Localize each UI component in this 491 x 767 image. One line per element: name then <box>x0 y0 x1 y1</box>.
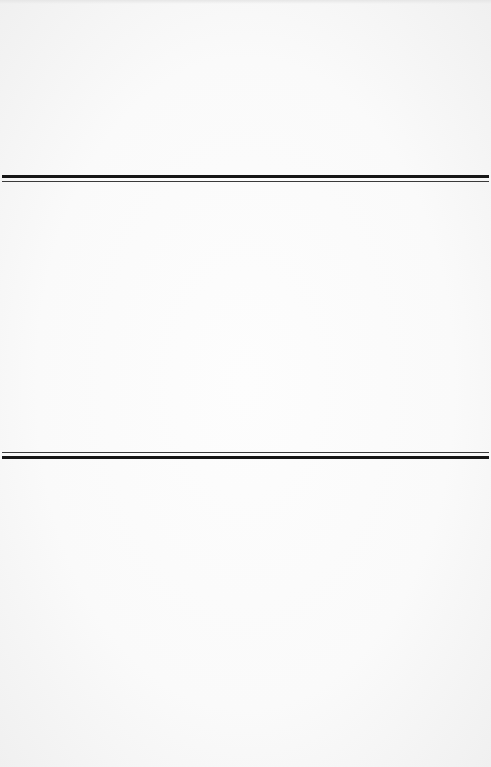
document-page <box>0 0 491 767</box>
bottom-rule-thick <box>2 456 489 459</box>
top-rule-thick <box>2 175 489 178</box>
top-rule-thin <box>2 181 489 182</box>
bottom-rule-thin <box>2 452 489 453</box>
page-edge-shadow <box>0 0 491 4</box>
